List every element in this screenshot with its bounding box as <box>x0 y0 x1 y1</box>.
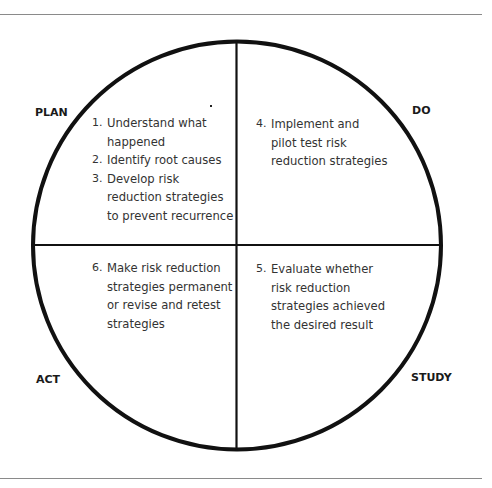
step-text-line: Implement and <box>271 115 388 134</box>
step-2: 2. Identify root causes <box>92 151 233 170</box>
plan-steps-list: 1. Understand what happened 2. Identify … <box>92 114 233 225</box>
step-number: 5. <box>256 260 267 279</box>
step-5: 5. Evaluate whether risk reduction strat… <box>256 260 385 334</box>
step-text-line: strategies achieved <box>271 297 385 316</box>
step-text-line: happened <box>107 133 233 152</box>
step-number: 4. <box>256 115 267 134</box>
step-text-line: risk reduction <box>271 279 385 298</box>
step-text-line: strategies permanent <box>107 278 232 297</box>
step-text-line: reduction strategies <box>107 188 233 207</box>
do-steps-list: 4. Implement and pilot test risk reducti… <box>256 115 388 171</box>
step-number: 6. <box>92 259 103 278</box>
step-text-line: the desired result <box>271 316 385 335</box>
step-text-line: Understand what <box>107 114 233 133</box>
phase-label-study: STUDY <box>411 371 452 384</box>
step-1: 1. Understand what happened <box>92 114 233 151</box>
step-text-line: or revise and retest <box>107 296 232 315</box>
step-text-line: pilot test risk <box>271 134 388 153</box>
step-text-line: reduction strategies <box>271 152 388 171</box>
step-text-line: Evaluate whether <box>271 260 385 279</box>
pdsa-cycle-circle <box>0 0 492 488</box>
step-3: 3. Develop risk reduction strategies to … <box>92 170 233 226</box>
phase-label-act: ACT <box>36 373 60 386</box>
step-text-line: Make risk reduction <box>107 259 232 278</box>
step-text-line: Identify root causes <box>107 151 233 170</box>
scan-speck <box>210 105 212 107</box>
step-number: 3. <box>92 170 103 189</box>
step-text-line: strategies <box>107 315 232 334</box>
step-text-line: to prevent recurrence <box>107 207 233 226</box>
step-text-line: Develop risk <box>107 170 233 189</box>
step-number: 2. <box>92 151 103 170</box>
step-4: 4. Implement and pilot test risk reducti… <box>256 115 388 171</box>
phase-label-do: DO <box>412 104 430 117</box>
step-number: 1. <box>92 114 103 133</box>
act-steps-list: 6. Make risk reduction strategies perman… <box>92 259 232 333</box>
step-6: 6. Make risk reduction strategies perman… <box>92 259 232 333</box>
phase-label-plan: PLAN <box>35 106 68 119</box>
study-steps-list: 5. Evaluate whether risk reduction strat… <box>256 260 385 334</box>
